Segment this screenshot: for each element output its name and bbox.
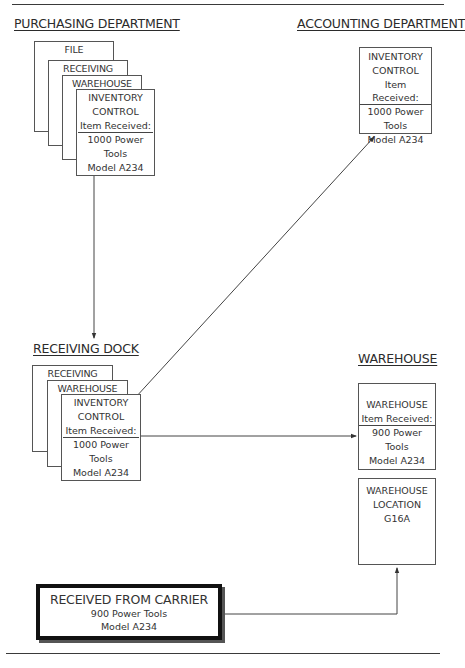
- receiving-inventory-form: INVENTORY CONTROL Item Received: 1000 Po…: [61, 394, 141, 481]
- receiving-dock-title: RECEIVING DOCK: [33, 341, 139, 356]
- form-qty: 900 Power: [359, 426, 435, 440]
- form-model: Model A234: [359, 454, 435, 468]
- accounting-inventory-form: INVENTORY CONTROL Item Received: 1000 Po…: [359, 47, 432, 134]
- form-qty: 1000 Power: [77, 133, 154, 147]
- form-item-received-label: Item Received:: [63, 424, 138, 438]
- warehouse-title: WAREHOUSE: [358, 351, 437, 366]
- warehouse-received-form: WAREHOUSE Item Received: 900 Power Tools…: [358, 383, 436, 470]
- form-item: Tools: [62, 452, 140, 466]
- carrier-title: RECEIVED FROM CARRIER: [40, 592, 218, 607]
- location-line1: WAREHOUSE: [359, 484, 435, 498]
- accounting-department-title: ACCOUNTING DEPARTMENT: [297, 16, 465, 31]
- form-item-received-label: Item Received:: [78, 119, 153, 133]
- form-qty: 1000 Power: [62, 438, 140, 452]
- copy-label: FILE: [35, 42, 113, 57]
- location-line2: LOCATION: [359, 498, 435, 512]
- carrier-model: Model A234: [40, 620, 218, 633]
- form-item-received-label: Item Received:: [359, 412, 434, 426]
- form-line1: INVENTORY: [360, 50, 431, 64]
- copy-label: RECEIVING: [33, 366, 112, 381]
- form-line2: CONTROL: [360, 64, 431, 78]
- arrow-receiving-to-accounting: [135, 137, 374, 398]
- form-item: Tools: [360, 119, 431, 133]
- form-line1: INVENTORY: [62, 396, 140, 410]
- form-line1: WAREHOUSE: [359, 398, 435, 412]
- purchasing-department-title: PURCHASING DEPARTMENT: [14, 16, 180, 31]
- arrow-carrier-to-location: [222, 568, 397, 614]
- form-qty: 1000 Power: [360, 105, 431, 119]
- carrier-qty: 900 Power Tools: [40, 607, 218, 620]
- form-line2: CONTROL: [62, 410, 140, 424]
- form-item: Tools: [77, 147, 154, 161]
- purchasing-inventory-form: INVENTORY CONTROL Item Received: 1000 Po…: [76, 89, 155, 176]
- warehouse-location-card: WAREHOUSE LOCATION G16A: [358, 478, 436, 565]
- location-code: G16A: [359, 512, 435, 526]
- form-model: Model A234: [360, 133, 431, 147]
- form-line2: CONTROL: [77, 105, 154, 119]
- received-from-carrier-box: RECEIVED FROM CARRIER 900 Power Tools Mo…: [36, 584, 222, 640]
- form-model: Model A234: [77, 161, 154, 175]
- form-item: Tools: [359, 440, 435, 454]
- form-item-received-label: Item Received:: [360, 78, 431, 105]
- copy-label: RECEIVING: [49, 61, 127, 76]
- form-line1: INVENTORY: [77, 91, 154, 105]
- form-model: Model A234: [62, 466, 140, 480]
